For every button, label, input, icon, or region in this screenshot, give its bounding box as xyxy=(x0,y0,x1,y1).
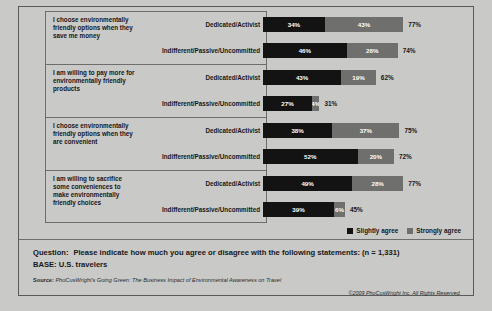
bar-row: 52%20%72% xyxy=(263,149,412,164)
chart-legend: Slightly agreeStrongly agree xyxy=(347,227,461,234)
question-lead: Question: xyxy=(33,248,68,257)
bar-total-label: 74% xyxy=(403,43,416,58)
bar-segment-slightly-agree: 39% xyxy=(263,202,334,217)
bar-segment-strongly-agree: 37% xyxy=(332,123,399,138)
bar-segment-slightly-agree: 52% xyxy=(263,149,358,164)
bar-segment-strongly-agree: 43% xyxy=(325,17,403,32)
bar-segment-slightly-agree: 43% xyxy=(263,70,341,85)
statement-text: I choose environmentally friendly option… xyxy=(53,16,137,40)
statement-group: I am willing to pay more for environment… xyxy=(46,65,266,118)
bar-group: 38%37%75%52%20%72% xyxy=(263,117,473,170)
bar-segment-slightly-agree: 38% xyxy=(263,123,332,138)
bar-row: 46%28%74% xyxy=(263,43,415,58)
bar-row: 39%6%45% xyxy=(263,202,363,217)
bar-total-label: 31% xyxy=(324,96,337,111)
bar-segment-strongly-agree: 28% xyxy=(347,43,398,58)
legend-item: Slightly agree xyxy=(347,227,398,234)
legend-label: Slightly agree xyxy=(356,227,398,234)
segment-category-label: Dedicated/Activist xyxy=(120,127,260,134)
bar-total-label: 45% xyxy=(350,202,363,217)
segment-category-label: Indifferent/Passive/Uncommitted xyxy=(120,47,260,54)
footer-divider xyxy=(19,239,473,240)
statement-group: I choose environmentally friendly option… xyxy=(46,118,266,171)
bar-total-label: 72% xyxy=(399,149,412,164)
source-lead: Source: xyxy=(33,277,54,283)
bar-total-label: 77% xyxy=(408,176,421,191)
chart-footer: Question:Please indicate how much you ag… xyxy=(33,247,461,296)
bar-total-label: 77% xyxy=(408,17,421,32)
bar-group: 43%19%62%27%4%31% xyxy=(263,64,473,117)
copyright-line: ©2009 PhoCusWright Inc. All Rights Reser… xyxy=(33,290,461,296)
segment-category-label: Indifferent/Passive/Uncommitted xyxy=(120,153,260,160)
bar-segment-strongly-agree: 28% xyxy=(352,176,403,191)
statement-label-panel: I choose environmentally friendly option… xyxy=(45,11,267,223)
chart-frame: I choose environmentally friendly option… xyxy=(18,6,474,296)
source-text: PhoCusWright's Going Green: The Business… xyxy=(55,277,281,283)
question-text: Please indicate how much you agree or di… xyxy=(73,248,399,257)
bar-segment-strongly-agree: 20% xyxy=(358,149,394,164)
bar-segment-slightly-agree: 49% xyxy=(263,176,352,191)
bar-row: 43%19%62% xyxy=(263,70,394,85)
square-swatch-icon xyxy=(347,228,353,234)
bar-row: 49%28%77% xyxy=(263,176,421,191)
chart-page: I choose environmentally friendly option… xyxy=(0,0,492,311)
bar-segment-slightly-agree: 27% xyxy=(263,96,312,111)
bar-total-label: 75% xyxy=(404,123,417,138)
statement-text: I choose environmentally friendly option… xyxy=(53,122,137,146)
bars-container: 34%43%77%46%28%74%43%19%62%27%4%31%38%37… xyxy=(263,11,473,223)
bar-row: 34%43%77% xyxy=(263,17,421,32)
legend-item: Strongly agree xyxy=(407,227,461,234)
segment-category-label: Indifferent/Passive/Uncommitted xyxy=(120,206,260,213)
bar-segment-slightly-agree: 46% xyxy=(263,43,347,58)
statement-group: I am willing to sacrifice some convenien… xyxy=(46,171,266,224)
bar-segment-slightly-agree: 34% xyxy=(263,17,325,32)
legend-label: Strongly agree xyxy=(416,227,461,234)
question-line: Question:Please indicate how much you ag… xyxy=(33,247,461,259)
bar-segment-strongly-agree: 4% xyxy=(312,96,319,111)
segment-category-label: Dedicated/Activist xyxy=(120,180,260,187)
bar-group: 49%28%77%39%6%45% xyxy=(263,170,473,223)
bar-row: 38%37%75% xyxy=(263,123,417,138)
bar-group: 34%43%77%46%28%74% xyxy=(263,11,473,64)
base-line: BASE: U.S. travelers xyxy=(33,259,461,271)
segment-category-label: Dedicated/Activist xyxy=(120,21,260,28)
statement-text: I am willing to pay more for environment… xyxy=(53,69,137,93)
chart-plot-area: I choose environmentally friendly option… xyxy=(19,7,475,233)
bar-row: 27%4%31% xyxy=(263,96,337,111)
segment-category-label: Dedicated/Activist xyxy=(120,74,260,81)
statement-group: I choose environmentally friendly option… xyxy=(46,12,266,65)
bar-segment-strongly-agree: 6% xyxy=(334,202,345,217)
bar-segment-strongly-agree: 19% xyxy=(341,70,376,85)
segment-category-label: Indifferent/Passive/Uncommitted xyxy=(120,100,260,107)
bar-total-label: 62% xyxy=(381,70,394,85)
source-line: Source: PhoCusWright's Going Green: The … xyxy=(33,277,461,283)
square-swatch-icon xyxy=(407,228,413,234)
